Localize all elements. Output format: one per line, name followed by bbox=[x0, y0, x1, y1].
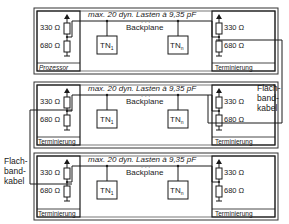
bus-label: max. 20 dyn. Lasten à 9,35 pF bbox=[88, 155, 197, 164]
cable-label-line: kabel bbox=[257, 103, 277, 113]
ribbon-cable-right: Flach- band- kabel bbox=[30, 21, 288, 124]
left-r-bottom: 680 Ω bbox=[40, 186, 61, 195]
right-r-bottom: 680 Ω bbox=[224, 41, 245, 50]
svg-text:· · ·: · · · bbox=[141, 93, 150, 99]
left-r-top: 330 Ω bbox=[40, 168, 61, 177]
right-r-bottom: 680 Ω bbox=[224, 186, 245, 195]
svg-text:· · ·: · · · bbox=[141, 19, 150, 25]
left-r-bottom: 680 Ω bbox=[40, 41, 61, 50]
right-r-top: 330 Ω bbox=[224, 23, 245, 32]
right-r-top: 330 Ω bbox=[224, 168, 245, 177]
svg-text:· · ·: · · · bbox=[141, 164, 150, 170]
right-unit-label: Terminierung bbox=[215, 210, 253, 218]
row-3: Terminierung 330 Ω 680 Ω Terminierung 33… bbox=[34, 153, 278, 220]
backplane-diagram: Prozessor 330 Ω 680 Ω Terminierung 330 Ω… bbox=[0, 0, 289, 224]
left-r-top: 330 Ω bbox=[40, 97, 61, 106]
cable-label-line: kabel bbox=[4, 176, 24, 186]
left-r-top: 330 Ω bbox=[40, 23, 61, 32]
cable-label-line: band- bbox=[4, 166, 26, 176]
left-r-bottom: 680 Ω bbox=[40, 115, 61, 124]
row-1: Prozessor 330 Ω 680 Ω Terminierung 330 Ω… bbox=[34, 8, 278, 74]
cable-label-line: Flach- bbox=[4, 156, 28, 166]
left-unit-label: Terminierung bbox=[38, 138, 76, 146]
row-2: Terminierung 330 Ω 680 Ω Terminierung 33… bbox=[34, 82, 278, 148]
left-unit-label: Terminierung bbox=[38, 210, 76, 218]
right-r-top: 330 Ω bbox=[224, 97, 245, 106]
right-unit-label: Terminierung bbox=[215, 138, 253, 146]
left-unit-label: Prozessor bbox=[39, 64, 69, 71]
right-unit-label: Terminierung bbox=[215, 64, 253, 72]
cable-label-line: Flach- bbox=[257, 83, 281, 93]
bus-label: max. 20 dyn. Lasten à 9,35 pF bbox=[88, 84, 197, 93]
cable-label-line: band- bbox=[257, 93, 279, 103]
bus-label: max. 20 dyn. Lasten à 9,35 pF bbox=[88, 10, 197, 19]
